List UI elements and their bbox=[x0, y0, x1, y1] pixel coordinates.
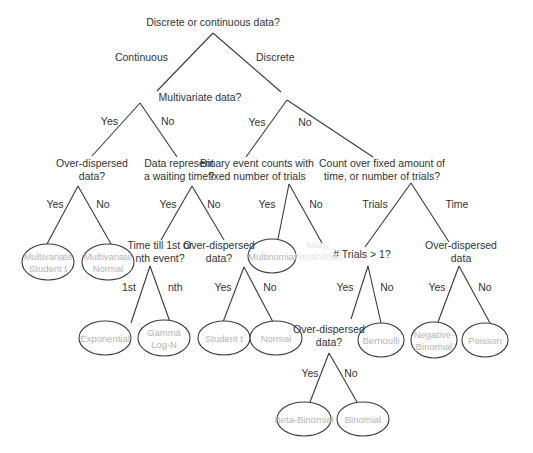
edge-label-root-discrete: Discrete bbox=[256, 51, 295, 63]
edge-label-wait-no: No bbox=[207, 198, 221, 210]
edge-label-tr-yes: Yes bbox=[336, 281, 353, 293]
edge-bin-yes bbox=[278, 184, 289, 239]
leaf-node-beta-binomial: Beta-Binomial bbox=[274, 402, 333, 436]
edge-odmv-yes bbox=[47, 186, 78, 244]
text-line: Binomial bbox=[345, 414, 381, 425]
edge-wait-yes bbox=[161, 186, 192, 240]
leaf-node-exponential: Exponential bbox=[79, 321, 131, 355]
edge-mv-no bbox=[140, 103, 177, 157]
text-line: Possibilities bbox=[293, 251, 343, 262]
text-line: Multivariate data? bbox=[159, 91, 242, 103]
text-line: Count over fixed amount of bbox=[319, 157, 445, 169]
edge-odw-no bbox=[244, 267, 273, 322]
text-line: time, or number of trials? bbox=[324, 170, 440, 182]
edge-label-mv-no: No bbox=[161, 115, 175, 127]
faded-leaves-layer: ManyPossibilities bbox=[293, 239, 343, 262]
text-line: Gamma bbox=[147, 327, 182, 338]
text-line: Poisson bbox=[468, 335, 502, 346]
leaf-node-gamma-logn: GammaLog-N bbox=[138, 320, 190, 356]
leaf-node-bernoulli: Bernoulli bbox=[358, 323, 404, 357]
text-line: Normal bbox=[261, 333, 292, 344]
leaf-node-binomial: Binomial bbox=[337, 402, 389, 436]
text-line: Over-dispersed bbox=[183, 239, 255, 251]
text-line: Beta-Binomial bbox=[274, 414, 333, 425]
text-line: nth event? bbox=[135, 252, 184, 264]
edge-label-tr-no: No bbox=[380, 281, 394, 293]
edge-label-tt-1st: 1st bbox=[122, 281, 136, 293]
edge-tt-nth bbox=[150, 266, 170, 322]
text-line: Discrete or continuous data? bbox=[146, 16, 280, 28]
text-line: Log-N bbox=[151, 339, 177, 350]
edge-label-cnt-time: Time bbox=[446, 198, 469, 210]
edge-odt-yes bbox=[438, 266, 459, 322]
text-line: Bernoulli bbox=[363, 335, 400, 346]
edge-tr-no bbox=[368, 266, 381, 323]
question-node-overdispersed-trials: Over-disperseddata? bbox=[293, 323, 365, 348]
text-line: a waiting time? bbox=[144, 170, 214, 182]
edge-label-mv-yes: Yes bbox=[101, 115, 118, 127]
question-node-overdispersed-time: Over-disperseddata bbox=[425, 239, 497, 264]
edge-label-odmv-yes: Yes bbox=[46, 198, 63, 210]
edge-odmv-no bbox=[78, 186, 111, 244]
text-line: Binary event counts with bbox=[200, 157, 314, 169]
question-node-binary-counts: Binary event counts withfixed number of … bbox=[200, 157, 314, 182]
text-line: Many bbox=[306, 239, 329, 250]
text-line: Student t bbox=[205, 333, 243, 344]
text-line: Over-dispersed bbox=[293, 323, 365, 335]
leaves-layer: MultivariateStudent tMultivariateNormalM… bbox=[22, 239, 508, 436]
text-line: data? bbox=[79, 170, 105, 182]
text-line: Multivariate bbox=[24, 251, 73, 262]
edge-label-odtr-yes: Yes bbox=[301, 367, 318, 379]
edge-cnt-time bbox=[411, 183, 449, 242]
text-line: fixed number of trials bbox=[208, 170, 305, 182]
edge-wait-no bbox=[192, 186, 224, 240]
edge-label-odw-no: No bbox=[263, 281, 277, 293]
edge-label-odw-yes: Yes bbox=[214, 281, 231, 293]
edge-odt-no bbox=[459, 266, 490, 323]
text-line: Multivariate bbox=[84, 251, 133, 262]
text-line: data bbox=[451, 252, 472, 264]
question-node-count-fixed: Count over fixed amount oftime, or numbe… bbox=[319, 157, 445, 182]
leaf-node-student-t: Student t bbox=[198, 321, 250, 355]
leaf-node-poisson: Poisson bbox=[462, 323, 508, 357]
edge-label-odt-yes: Yes bbox=[428, 281, 445, 293]
text-line: Over-dispersed bbox=[56, 157, 128, 169]
text-line: Multinomial bbox=[248, 251, 296, 262]
question-node-overdispersed-wait: Over-disperseddata? bbox=[183, 239, 255, 264]
edge-label-wait-yes: Yes bbox=[159, 198, 176, 210]
leaf-node-multinomial: Multinomial bbox=[248, 239, 296, 273]
question-node-root: Discrete or continuous data? bbox=[146, 16, 280, 28]
edge-label-bin-no: No bbox=[309, 198, 323, 210]
question-node-multivariate: Multivariate data? bbox=[159, 91, 242, 103]
text-line: data? bbox=[206, 252, 232, 264]
edge-bin-no bbox=[289, 184, 322, 243]
questions-layer: Discrete or continuous data?Multivariate… bbox=[56, 16, 497, 348]
text-line: Over-dispersed bbox=[425, 239, 497, 251]
text-line: Normal bbox=[93, 263, 124, 274]
edge-label-disc-no: No bbox=[298, 116, 312, 128]
leaf-node-negative-binomial: Negative-Binomial bbox=[411, 322, 457, 358]
faded-leaf-many-possibilities: ManyPossibilities bbox=[293, 239, 343, 262]
edge-tt-1st bbox=[131, 266, 150, 323]
edge-odw-yes bbox=[223, 267, 244, 322]
edge-label-root-continuous: Continuous bbox=[115, 51, 168, 63]
decision-tree-diagram: ContinuousDiscreteYesNoYesNoYesNoYesNoYe… bbox=[0, 0, 533, 453]
text-line: Binomial bbox=[416, 341, 452, 352]
edge-label-tt-nth: nth bbox=[168, 281, 183, 293]
leaf-node-mv-student-t: MultivariateStudent t bbox=[22, 244, 74, 280]
text-line: data? bbox=[316, 336, 342, 348]
text-line: Negative- bbox=[414, 329, 455, 340]
edge-label-odtr-no: No bbox=[344, 367, 358, 379]
edge-label-odt-no: No bbox=[478, 281, 492, 293]
edge-disc-no bbox=[287, 100, 373, 157]
edge-mv-yes bbox=[92, 103, 140, 156]
edge-label-cnt-trials: Trials bbox=[362, 198, 387, 210]
edge-disc-yes bbox=[246, 100, 287, 157]
text-line: Exponential bbox=[80, 333, 130, 344]
edge-cnt-trials bbox=[365, 183, 411, 247]
edge-label-bin-yes: Yes bbox=[258, 198, 275, 210]
edge-label-odmv-no: No bbox=[96, 198, 110, 210]
question-node-overdispersed-mv: Over-disperseddata? bbox=[56, 157, 128, 182]
edge-label-disc-yes: Yes bbox=[248, 116, 265, 128]
text-line: Student t bbox=[29, 263, 67, 274]
